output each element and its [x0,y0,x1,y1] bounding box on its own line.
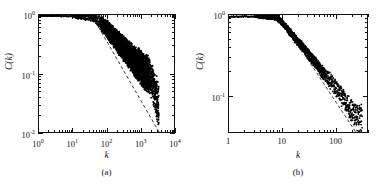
plot-frame-a [38,14,175,133]
y-axis-minor-tick [38,20,41,21]
y-axis-minor-tick [172,27,175,28]
x-axis-minor-tick [254,14,255,17]
x-tick-label: 10 [262,137,302,146]
y-axis-minor-tick [228,39,231,40]
x-axis-minor-tick [67,130,68,133]
x-axis-tick [336,128,337,133]
x-axis-minor-tick [123,14,124,17]
x-axis-minor-tick [65,14,66,17]
x-axis-minor-tick [266,130,267,133]
x-axis-minor-tick [298,130,299,133]
y-axis-minor-tick [365,18,368,19]
x-axis-minor-tick [96,130,97,133]
x-axis-title-a: k [38,150,175,160]
x-axis-minor-tick [157,14,158,17]
y-axis-tick [38,133,43,134]
x-axis-minor-tick [270,130,271,133]
x-axis-minor-tick [99,130,100,133]
y-axis-tick [363,14,368,15]
y-axis-minor-tick [38,87,41,88]
x-axis-minor-tick [101,14,102,17]
y-axis-minor-tick [365,39,368,40]
x-tick-label: 100 [316,137,356,146]
y-axis-minor-tick [172,32,175,33]
x-axis-minor-tick [83,14,84,17]
y-axis-minor-tick [172,115,175,116]
x-axis-tick [107,14,108,19]
y-axis-tick [170,74,175,75]
x-axis-minor-tick [244,130,245,133]
y-axis-minor-tick [228,27,231,28]
x-axis-minor-tick [54,14,55,17]
x-axis-minor-tick [151,14,152,17]
y-axis-minor-tick [365,22,368,23]
y-axis-minor-tick [38,105,41,106]
x-axis-minor-tick [54,130,55,133]
x-axis-minor-tick [93,130,94,133]
panel-a: 100101102103104 10010-110-2 k C(k) (a) [0,0,190,187]
x-axis-minor-tick [368,14,369,17]
x-axis-minor-tick [279,130,280,133]
panel-caption-a: (a) [38,167,175,177]
y-tick-label: 10-1 [1,69,35,81]
panel-caption-b: (b) [228,167,368,177]
x-axis-minor-tick [151,130,152,133]
x-axis-minor-tick [324,14,325,17]
y-axis-minor-tick [172,56,175,57]
plot-area-b [229,15,367,132]
x-axis-minor-tick [167,130,168,133]
y-axis-minor-tick [38,97,41,98]
y-tick-label: 10-2 [1,128,35,140]
y-axis-minor-tick [38,23,41,24]
y-axis-minor-tick [172,45,175,46]
x-axis-tick [175,128,176,133]
y-axis-title-a: C(k) [4,56,14,70]
x-axis-minor-tick [101,130,102,133]
x-axis-minor-tick [133,130,134,133]
x-axis-tick [141,14,142,19]
x-axis-minor-tick [48,130,49,133]
y-axis-minor-tick [172,97,175,98]
y-axis-tick [170,14,175,15]
x-axis-minor-tick [130,14,131,17]
x-axis-tick [141,128,142,133]
y-axis-tick [228,96,233,97]
x-axis-title-b: k [228,150,368,160]
x-axis-minor-tick [165,14,166,17]
y-axis-minor-tick [172,91,175,92]
x-axis-minor-tick [127,130,128,133]
y-axis-minor-tick [172,38,175,39]
y-axis-minor-tick [38,79,41,80]
x-axis-minor-tick [330,130,331,133]
x-axis-minor-tick [254,130,255,133]
y-axis-minor-tick [38,32,41,33]
y-axis-minor-tick [38,115,41,116]
plot-frame-b [228,14,368,133]
x-axis-minor-tick [96,14,97,17]
x-axis-minor-tick [273,130,274,133]
y-axis-tick [170,133,175,134]
x-axis-minor-tick [123,130,124,133]
x-tick-label: 1 [208,137,248,146]
x-axis-minor-tick [67,14,68,17]
x-axis-minor-tick [89,14,90,17]
y-axis-minor-tick [38,76,41,77]
y-axis-minor-tick [365,57,368,58]
y-axis-minor-tick [172,79,175,80]
x-axis-minor-tick [93,14,94,17]
x-axis-minor-tick [260,130,261,133]
x-axis-tick [282,128,283,133]
x-axis-tick [228,128,229,133]
x-axis-tick [175,14,176,19]
y-axis-tick [363,96,368,97]
x-axis-tick [107,128,108,133]
x-axis-minor-tick [352,130,353,133]
x-axis-minor-tick [266,14,267,17]
x-axis-minor-tick [244,14,245,17]
x-axis-minor-tick [59,130,60,133]
x-axis-minor-tick [273,14,274,17]
x-axis-minor-tick [368,130,369,133]
y-axis-minor-tick [38,91,41,92]
x-axis-minor-tick [352,14,353,17]
x-axis-minor-tick [319,130,320,133]
